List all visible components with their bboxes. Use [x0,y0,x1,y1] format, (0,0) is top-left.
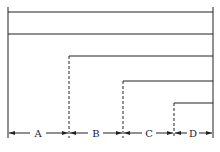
dimension-label-a: A [33,128,42,139]
dimension-label-d: D [189,128,197,139]
dimension-label-c: C [145,128,153,139]
dimension-label-b: B [92,128,99,139]
dimension-diagram: A B C D [0,0,220,152]
